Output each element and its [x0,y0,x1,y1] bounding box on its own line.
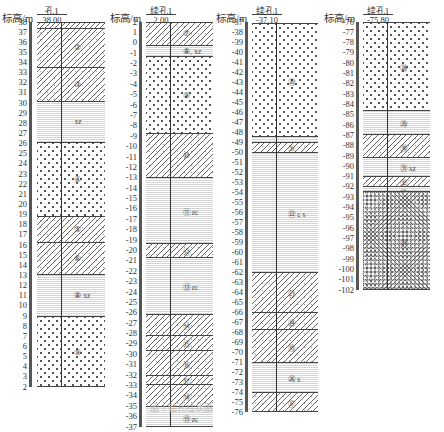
soil-layer: ㉙ [363,110,430,135]
figure-caption: 图 1 钻孔柱状图 [150,401,213,414]
axis-tick-label: -80 [330,59,354,68]
axis-tick-label: -87 [330,131,354,140]
borehole-centerline [387,22,388,290]
axis-tick-label: -86 [330,121,354,130]
axis-tick-label: -91 [330,172,354,181]
axis-tick-label: -99 [330,255,354,264]
layer-label: ㉘ [400,62,407,73]
axis-tick-label: -84 [330,100,354,109]
axis-tick-label: -95 [330,213,354,222]
layer-label: ㉙ [400,118,407,129]
axis-tick-label: -101 [330,275,354,284]
borehole-log: ㉘㉙㉚㉛ xz㉜㉝ s㉞ [363,22,430,290]
soil-layer: ㉜ [363,176,430,186]
axis-tick-label: -89 [330,152,354,161]
soil-layer: ㉘ [363,22,430,110]
axis-tick-label: -77 [330,28,354,37]
layer-label: ㉛ xz [400,162,416,173]
axis-tick-label: -97 [330,234,354,243]
axis-tick-label: -93 [330,193,354,202]
log-bottom-line [363,289,430,290]
layer-label: ㉞ [400,237,407,248]
soil-layer: ㉛ xz [363,157,430,176]
log-bottom-line [146,426,213,427]
axis-tick-label: -78 [330,38,354,47]
axis-tick-label: -85 [330,110,354,119]
elevation-axis [356,22,359,290]
axis-tick-label: -82 [330,79,354,88]
soil-layer: ㉞ [363,191,430,290]
axis-tick-label: -92 [330,182,354,191]
axis-tick-label: -81 [330,69,354,78]
axis-tick-label: -79 [330,48,354,57]
axis-tick-label: -83 [330,90,354,99]
axis-tick-label: -90 [330,162,354,171]
axis-tick-label: -37 [113,423,137,432]
axis-tick-label: -96 [330,224,354,233]
axis-tick-label: -98 [330,244,354,253]
axis-tick-label: -102 [330,286,354,295]
soil-layer: ㉚ [363,134,430,157]
axis-tick-label: -76 [330,18,354,27]
axis-tick-label: -88 [330,141,354,150]
axis-tick-label: -100 [330,265,354,274]
axis-tick-label: -94 [330,203,354,212]
layer-label: ㉚ [400,142,407,153]
